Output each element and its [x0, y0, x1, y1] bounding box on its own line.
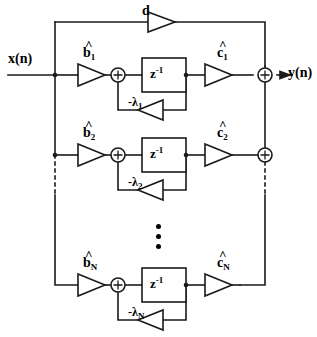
- gain-triangle-c1: [205, 64, 232, 86]
- gain-label-c2-sub: 2: [223, 132, 228, 142]
- gain-triangle-c2: [205, 144, 232, 166]
- gain-label-lambda2-base: -λ: [128, 175, 138, 189]
- gain-label-b1: b1: [83, 46, 95, 60]
- gain-label-lambdaN-base: -λ: [128, 305, 138, 319]
- junction-dot-delayN: [184, 283, 189, 288]
- delay-block-N: [142, 268, 186, 302]
- gain-label-b2-sub: 2: [91, 132, 96, 142]
- gain-label-b1-sub: 1: [91, 52, 96, 62]
- gain-triangle-bN: [78, 274, 105, 296]
- gain-label-c2: c2: [217, 126, 228, 140]
- input-label: x(n): [8, 52, 32, 66]
- gain-label-lambda1-sub: 1: [138, 101, 143, 111]
- gain-triangle-b2: [78, 144, 105, 166]
- delay-label-N-base: z: [150, 276, 156, 291]
- delay-block-1: [142, 58, 186, 92]
- gain-label-b2-base: b: [83, 125, 91, 140]
- junction-dot-stage2: [53, 153, 58, 158]
- junction-dot-input: [53, 73, 58, 78]
- signal-flow-diagram: x(n) y(n) d ^ b1 ^ c1 z-1 -λ1 ^ b2 ^ c2 …: [0, 0, 317, 337]
- ellipsis-dot-1: [156, 224, 161, 229]
- left-bus-lower: [55, 195, 78, 285]
- ellipsis-dot-2: [156, 234, 161, 239]
- gain-label-lambda2: -λ2: [128, 176, 142, 188]
- ellipsis-dot-3: [156, 244, 161, 249]
- delay-label-2-base: z: [150, 146, 156, 161]
- gain-triangle-cN: [205, 274, 232, 296]
- gain-label-b1-base: b: [83, 45, 91, 60]
- delay-label-2-exp: -1: [156, 145, 164, 155]
- junction-dot-delay2: [184, 153, 189, 158]
- gain-label-c1: c1: [217, 46, 228, 60]
- gain-label-lambdaN-sub: N: [138, 311, 145, 321]
- gain-label-lambdaN: -λN: [128, 306, 144, 318]
- gain-label-lambda2-sub: 2: [138, 181, 143, 191]
- gain-label-b2: b2: [83, 126, 95, 140]
- delay-label-N: z-1: [150, 277, 163, 290]
- gain-label-bN-base: b: [83, 255, 91, 270]
- delay-label-1-exp: -1: [156, 65, 164, 75]
- delay-label-1: z-1: [150, 67, 163, 80]
- gain-label-lambda1-base: -λ: [128, 95, 138, 109]
- gain-label-bN-sub: N: [91, 262, 98, 272]
- gain-label-bN: bN: [83, 256, 97, 270]
- gain-triangle-d: [148, 12, 175, 32]
- junction-dot-delay1: [184, 73, 189, 78]
- gain-label-cN-sub: N: [223, 262, 230, 272]
- output-label: y(n): [288, 66, 312, 80]
- gain-label-c1-sub: 1: [223, 52, 228, 62]
- gain-label-cN: cN: [217, 256, 230, 270]
- junction-dots: [53, 73, 189, 288]
- gain-label-d: d: [142, 4, 150, 18]
- delay-label-2: z-1: [150, 147, 163, 160]
- delay-label-1-base: z: [150, 66, 156, 81]
- gain-triangle-b1: [78, 64, 105, 86]
- right-bus-lower: [240, 195, 265, 285]
- gain-label-lambda1: -λ1: [128, 96, 142, 108]
- delay-block-2: [142, 138, 186, 172]
- delay-label-N-exp: -1: [156, 275, 164, 285]
